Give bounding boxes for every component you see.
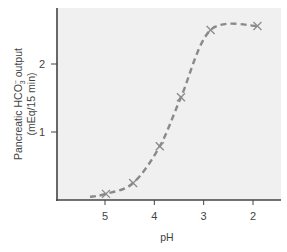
y-axis-title: Pancreatic HCO3− output (mEq/15 min) [12, 48, 37, 160]
y-axis-title-suffix: output [12, 48, 24, 80]
y-axis-title-line1: Pancreatic HCO3− output [12, 48, 26, 160]
x-tick-label: 4 [151, 210, 157, 222]
x-tick-label: 2 [250, 210, 256, 222]
y-axis-title-line2: (mEq/15 min) [25, 72, 37, 135]
y-axis-title-main: Pancreatic HCO [12, 84, 24, 160]
y-tick-label: 2 [39, 58, 45, 70]
x-tick-label: 3 [201, 210, 207, 222]
x-axis-title: pH [160, 231, 173, 243]
x-tick-label: 5 [102, 210, 108, 222]
plot-area [57, 8, 281, 200]
chart: 543212 pH Pancreatic HCO3− output (mEq/1… [0, 0, 287, 252]
y-tick-label: 1 [39, 126, 45, 138]
